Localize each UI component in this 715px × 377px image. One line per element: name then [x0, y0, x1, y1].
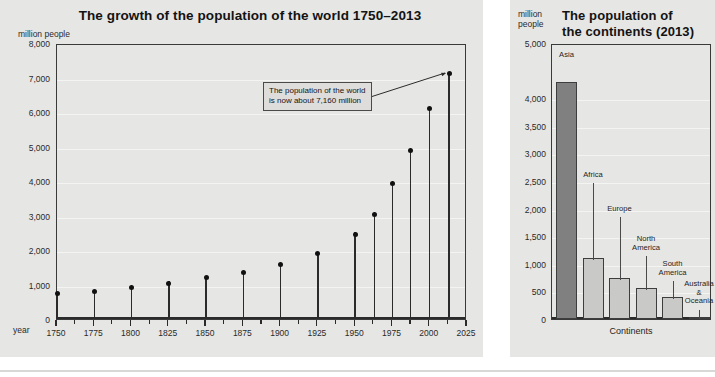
data-point-marker [408, 148, 413, 153]
x-tick-mark [93, 320, 94, 326]
bar-label-leader-line [673, 281, 674, 299]
left-chart-title: The growth of the population of the worl… [40, 8, 460, 23]
x-tick-label: 1875 [222, 328, 262, 338]
y-tick-label: 0 [510, 315, 546, 325]
x-minor-tick-mark [447, 320, 448, 324]
bottom-divider [0, 370, 715, 372]
x-minor-tick-mark [372, 320, 373, 324]
bar-category-label: Australia&Oceania [680, 280, 715, 306]
data-point-marker [92, 289, 97, 294]
data-point-stem [392, 181, 393, 319]
y-tick-label: 0 [8, 315, 50, 325]
y-tick-label: 3,500 [510, 122, 546, 132]
data-point-stem [205, 276, 206, 319]
data-point-stem [168, 281, 169, 319]
x-tick-mark [167, 320, 168, 326]
y-tick-label: 1,000 [8, 281, 50, 291]
x-tick-label: 1925 [297, 328, 337, 338]
x-tick-label: 1750 [36, 328, 76, 338]
y-tick-label: 5,000 [510, 39, 546, 49]
annotation-line-2: is now about 7,160 million [269, 96, 366, 106]
x-tick-mark [428, 320, 429, 326]
y-tick-label: 5,000 [8, 143, 50, 153]
y-tick-label: 3,000 [510, 149, 546, 159]
bar-label-leader-line [699, 310, 700, 319]
y-tick-label: 6,000 [8, 108, 50, 118]
x-tick-mark [204, 320, 205, 326]
x-tick-mark [316, 320, 317, 326]
y-tick-label: 2,000 [510, 205, 546, 215]
gridline [57, 287, 465, 288]
x-tick-label: 2025 [446, 328, 486, 338]
data-point-stem [131, 285, 132, 319]
x-tick-mark [242, 320, 243, 326]
gridline [57, 80, 465, 81]
x-minor-tick-mark [298, 320, 299, 324]
data-point-marker [129, 285, 134, 290]
data-point-stem [448, 72, 449, 319]
x-minor-tick-mark [260, 320, 261, 324]
bar-label-leader-line [593, 183, 594, 260]
right-chart-panel: The population of the continents (2013) … [510, 0, 715, 357]
y-tick-label: 500 [510, 287, 546, 297]
left-x-axis-unit-label: year [13, 326, 30, 336]
gridline [57, 183, 465, 184]
bar [636, 288, 657, 319]
y-tick-label: 3,000 [8, 212, 50, 222]
bar [583, 258, 604, 319]
gridline [57, 149, 465, 150]
data-point-stem [354, 232, 355, 319]
x-tick-label: 1775 [73, 328, 113, 338]
gridline [57, 252, 465, 253]
y-tick-label: 4,000 [8, 177, 50, 187]
data-point-marker [390, 181, 395, 186]
bar [556, 82, 577, 319]
data-point-stem [317, 252, 318, 319]
bar-category-label: SouthAmerica [653, 260, 692, 277]
x-minor-tick-mark [335, 320, 336, 324]
data-point-marker [278, 262, 283, 267]
x-tick-label: 1800 [111, 328, 151, 338]
x-minor-tick-mark [74, 320, 75, 324]
y-tick-label: 7,000 [8, 74, 50, 84]
data-point-marker [372, 212, 377, 217]
right-y-axis-unit-line2: people [518, 20, 544, 30]
x-tick-label: 2000 [409, 328, 449, 338]
bar-label-leader-line [646, 256, 647, 290]
y-tick-label: 1,000 [510, 260, 546, 270]
x-minor-tick-mark [149, 320, 150, 324]
right-chart-title-line2: the continents (2013) [562, 24, 694, 39]
right-x-axis-title: Continents [551, 326, 711, 336]
annotation-line-1: The population of the world [269, 86, 366, 96]
data-point-stem [280, 262, 281, 319]
left-chart-panel: The growth of the population of the worl… [0, 0, 483, 357]
data-point-stem [374, 212, 375, 319]
y-tick-label: 2,000 [8, 246, 50, 256]
data-point-marker [241, 270, 246, 275]
data-point-marker [427, 106, 432, 111]
data-point-stem [429, 107, 430, 319]
x-tick-label: 1950 [334, 328, 374, 338]
x-tick-label: 1850 [185, 328, 225, 338]
x-minor-tick-mark [186, 320, 187, 324]
y-tick-label: 1,500 [510, 232, 546, 242]
white-spacer [0, 357, 715, 377]
data-point-marker [55, 291, 60, 296]
x-minor-tick-mark [111, 320, 112, 324]
gridline [57, 218, 465, 219]
data-point-marker [204, 275, 209, 280]
y-tick-label: 4,000 [510, 94, 546, 104]
bar [609, 278, 630, 319]
x-tick-label: 1900 [260, 328, 300, 338]
data-point-stem [94, 290, 95, 319]
data-point-marker [447, 71, 452, 76]
bar-category-label: Africa [574, 171, 613, 180]
right-plot-area: AsiaAfricaEuropeNorthAmericaSouthAmerica… [551, 44, 711, 320]
x-tick-mark [391, 320, 392, 326]
screenshot-root: The growth of the population of the worl… [0, 0, 715, 377]
bar-category-label: Asia [547, 51, 586, 60]
x-tick-mark [130, 320, 131, 326]
data-point-marker [315, 251, 320, 256]
right-chart-title-line1: The population of [562, 8, 673, 23]
gridline [57, 114, 465, 115]
